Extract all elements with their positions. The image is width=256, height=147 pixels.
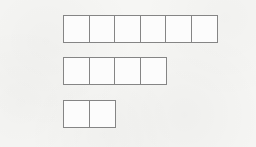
bar-cell [63,15,90,43]
bar-model-diagram [0,0,256,147]
bar-cell [63,100,90,128]
bar-cell [89,57,116,85]
bar-cell [191,15,218,43]
bar-cell [140,15,167,43]
bar-cell [165,15,192,43]
bar-row [63,15,218,43]
bar-row [63,100,116,128]
bar-cell [140,57,167,85]
bar-cell [89,15,116,43]
bar-row [63,57,167,85]
bar-cell [89,100,116,128]
bar-cell [63,57,90,85]
bar-cell [114,15,141,43]
bar-cell [114,57,141,85]
